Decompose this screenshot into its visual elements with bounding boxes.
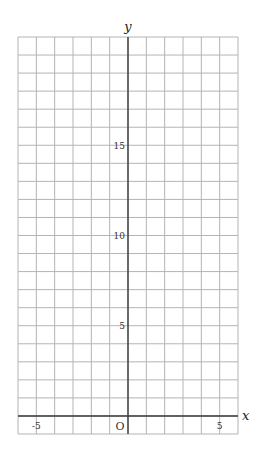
x-tick-label: -5 — [32, 421, 41, 431]
origin-label: O — [115, 420, 124, 433]
y-tick-label: 15 — [114, 141, 126, 151]
y-tick-label: 5 — [119, 321, 125, 331]
y-axis-label: y — [123, 19, 132, 34]
x-axis-label: x — [242, 408, 250, 423]
coordinate-grid-chart: -5551015 x y O — [0, 0, 262, 455]
x-tick-label: 5 — [217, 421, 223, 431]
y-tick-label: 10 — [114, 231, 126, 241]
